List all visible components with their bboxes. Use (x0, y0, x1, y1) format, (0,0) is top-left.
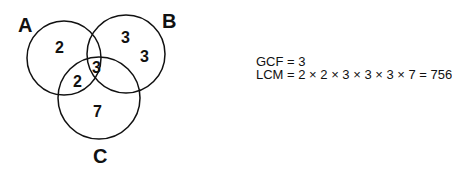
set-label-a: A (18, 14, 32, 37)
circle-b (87, 15, 165, 93)
set-label-b: B (162, 10, 176, 33)
lcm-equation: LCM = 2 × 2 × 3 × 3 × 3 × 7 = 756 (256, 67, 452, 82)
region-b-only-2: 3 (140, 48, 149, 66)
region-b-only-1: 3 (121, 29, 130, 47)
region-ac: 2 (73, 73, 82, 91)
region-abc: 3 (92, 59, 101, 77)
region-a-only: 2 (55, 39, 64, 57)
set-label-c: C (93, 145, 107, 168)
region-c-only: 7 (93, 103, 102, 121)
